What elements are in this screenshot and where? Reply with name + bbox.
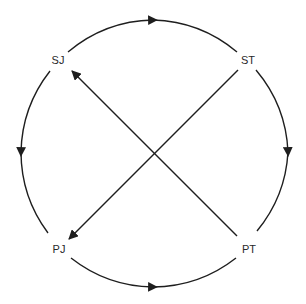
node-label-pt: PT [242, 243, 256, 255]
edge-sj-to-pj [21, 71, 50, 233]
edge-sj-to-st [68, 20, 237, 52]
edge-st-to-pt [256, 70, 288, 231]
node-label-pj: PJ [53, 243, 66, 255]
cycle-diagram: SJ ST PT PJ [0, 0, 306, 304]
edge-pj-to-pt [71, 258, 236, 287]
node-label-st: ST [241, 54, 255, 66]
node-label-sj: SJ [52, 54, 65, 66]
edge-st-to-pj [69, 70, 238, 239]
